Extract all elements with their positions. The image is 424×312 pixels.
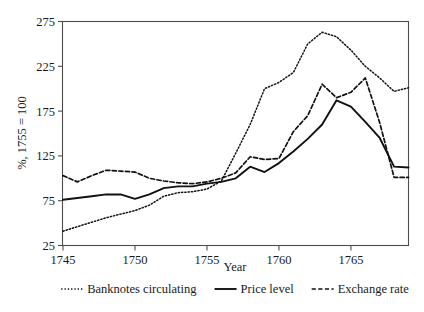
x-tick-label-1755: 1755 [194, 253, 219, 267]
chart-figure: 2575125175225275 17451750175517601765 Ye… [0, 0, 424, 312]
series-line-banknotes-circulating [63, 32, 409, 231]
x-axis-title: Year [223, 260, 247, 274]
x-tick-label-1750: 1750 [122, 253, 147, 267]
x-tick-label-1765: 1765 [338, 253, 363, 267]
plot-area-frame [63, 22, 409, 246]
x-tick-label-1745: 1745 [51, 253, 76, 267]
x-axis-tick-labels: 17451750175517601765 [51, 253, 364, 267]
x-tick-label-1760: 1760 [266, 253, 291, 267]
y-tick-label-75: 75 [43, 194, 56, 208]
y-tick-label-275: 275 [36, 15, 55, 29]
legend-label-price-level: Price level [241, 282, 295, 296]
y-tick-label-225: 225 [36, 60, 55, 74]
y-tick-label-175: 175 [36, 105, 55, 119]
x-axis-ticks [63, 246, 351, 251]
y-tick-label-125: 125 [36, 149, 55, 163]
series-line-exchange-rate [63, 78, 409, 184]
line-chart-svg: 2575125175225275 17451750175517601765 Ye… [0, 0, 424, 312]
data-series-group [63, 32, 409, 231]
series-line-price-level [63, 100, 409, 199]
chart-legend: Banknotes circulatingPrice levelExchange… [61, 282, 409, 296]
legend-label-exchange-rate: Exchange rate [338, 282, 410, 296]
legend-label-banknotes-circulating: Banknotes circulating [87, 282, 197, 296]
y-axis-title: %, 1755 = 100 [15, 96, 29, 170]
y-axis-tick-labels: 2575125175225275 [36, 15, 55, 253]
y-tick-label-25: 25 [43, 239, 56, 253]
